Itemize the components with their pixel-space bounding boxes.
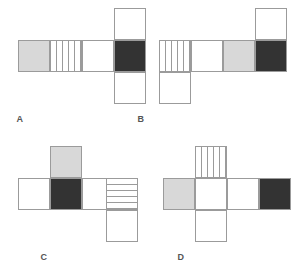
cell-gray (223, 40, 255, 72)
cube-net-a (0, 0, 148, 112)
cell-dark (259, 178, 291, 210)
cube-net-b (149, 0, 297, 112)
cell-white (82, 40, 114, 72)
cell-dark (114, 40, 146, 72)
cell-white-bottom (195, 210, 227, 242)
cell-white-top (114, 8, 146, 40)
cell-white-bottom (106, 210, 138, 242)
cell-vstripe (159, 40, 191, 72)
cell-vstripe-top (195, 146, 227, 178)
cell-white-top (255, 8, 287, 40)
cell-white-left (18, 178, 50, 210)
answer-option-b[interactable]: B (149, 0, 297, 138)
cell-white-bottom (114, 72, 146, 104)
answer-option-d[interactable]: D (149, 138, 297, 276)
cell-gray (163, 178, 195, 210)
cell-gray-top (50, 146, 82, 178)
answer-options-grid: A B C D (0, 0, 297, 276)
cell-dark (255, 40, 287, 72)
option-label-c: C (0, 252, 118, 262)
cube-net-d (149, 138, 297, 250)
cell-white-bottom (159, 72, 191, 104)
cell-hstripe (106, 178, 138, 210)
cube-net-c (0, 138, 148, 250)
cell-white-right (227, 178, 259, 210)
option-label-d: D (107, 252, 255, 262)
cell-white (191, 40, 223, 72)
cell-dark (50, 178, 82, 210)
cell-vstripe (50, 40, 82, 72)
option-label-b: B (67, 114, 215, 124)
cell-white-center (195, 178, 227, 210)
cell-gray (18, 40, 50, 72)
